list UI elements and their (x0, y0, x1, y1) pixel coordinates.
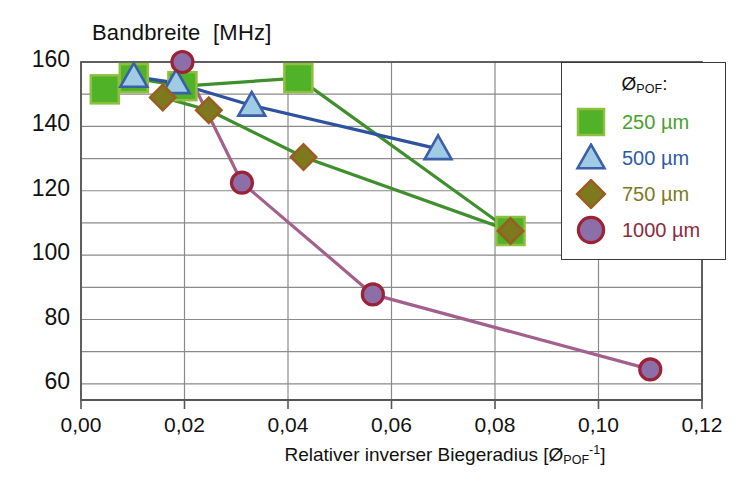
legend-title-sub: POF (636, 82, 662, 96)
x-axis-tick-label: 0,08 (460, 413, 530, 437)
y-axis-tick-label: 160 (0, 46, 70, 73)
x-axis-tick-label: 0,02 (150, 413, 220, 437)
x-axis-title-suffix: ] (600, 444, 605, 465)
x-axis-title: Relativer inverser Biegeradius [ØPOF-1] (0, 443, 754, 467)
marker-circle-1000-µm (640, 359, 661, 380)
legend-item-label: 250 µm (614, 111, 689, 134)
x-axis-tick-label: 0,12 (667, 413, 737, 437)
marker-triangle-legend (578, 145, 605, 169)
legend-title-main: Ø (622, 73, 637, 94)
marker-circle-1000-µm (231, 172, 252, 193)
marker-square-250-µm (284, 64, 312, 92)
x-axis-title-sup: -1 (589, 443, 600, 457)
x-axis-tick-label: 0,10 (564, 413, 634, 437)
legend-circle-icon (572, 215, 614, 245)
y-axis-tick-label: 120 (0, 175, 70, 202)
x-axis-tick-label: 0,00 (46, 413, 116, 437)
legend: ØPOF: 250 µm500 µm750 µm1000 µm (561, 62, 726, 260)
marker-circle-1000-µm (172, 52, 193, 73)
legend-title: ØPOF: (562, 73, 727, 96)
legend-item-label: 1000 µm (614, 219, 700, 242)
x-axis-tick-label: 0,04 (253, 413, 323, 437)
marker-square-legend (578, 109, 604, 135)
legend-diamond-icon (572, 179, 614, 209)
x-axis-tick-label: 0,06 (357, 413, 427, 437)
bandwidth-vs-bend-radius-chart: Bandbreite [MHz] 1601401201008060 0,000,… (0, 0, 754, 485)
y-axis-tick-label: 80 (0, 304, 70, 331)
legend-item-750-µm[interactable]: 750 µm (572, 179, 722, 209)
x-axis-title-prefix: Relativer inverser Biegeradius [Ø (285, 444, 564, 465)
y-axis-tick-label: 100 (0, 239, 70, 266)
legend-title-colon: : (662, 73, 667, 94)
marker-diamond-legend (577, 180, 605, 208)
marker-circle-1000-µm (362, 284, 383, 305)
legend-item-label: 500 µm (614, 147, 689, 170)
y-axis-tick-label: 60 (0, 368, 70, 395)
legend-triangle-icon (572, 143, 614, 173)
legend-square-icon (572, 107, 614, 137)
marker-circle-legend (578, 217, 603, 242)
legend-item-label: 750 µm (614, 183, 689, 206)
legend-item-250-µm[interactable]: 250 µm (572, 107, 722, 137)
marker-square-250-µm (91, 75, 119, 103)
legend-item-500-µm[interactable]: 500 µm (572, 143, 722, 173)
y-axis-tick-label: 140 (0, 110, 70, 137)
legend-item-1000-µm[interactable]: 1000 µm (572, 215, 722, 245)
x-axis-title-sub: POF (563, 453, 589, 467)
